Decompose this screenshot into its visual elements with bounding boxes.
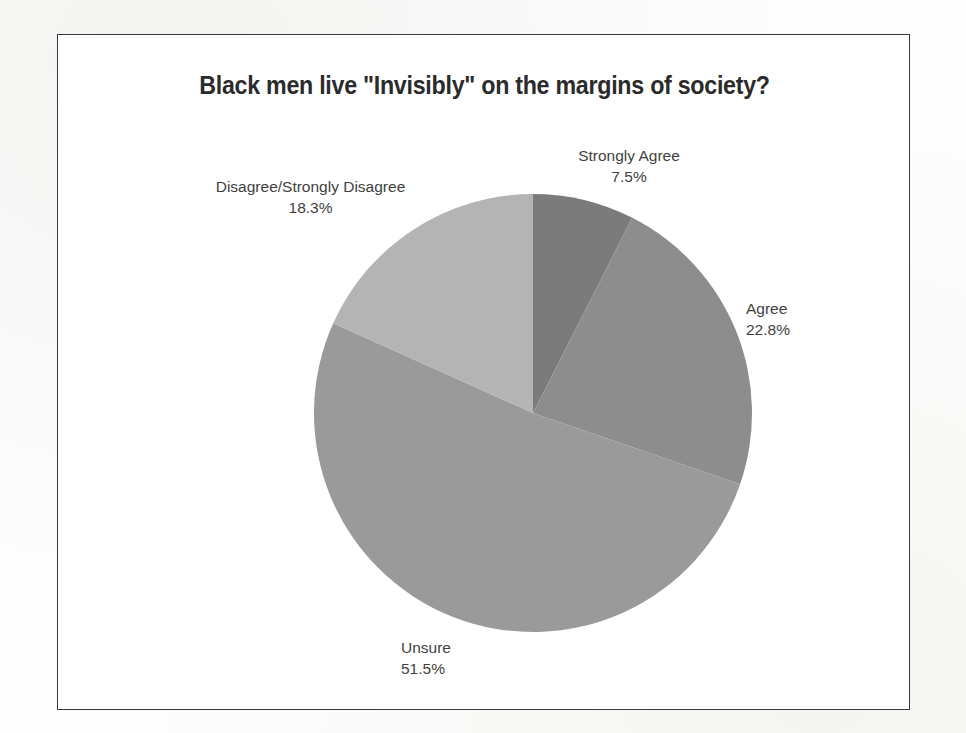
slice-label-unsure: Unsure 51.5% [401, 638, 541, 680]
slice-label-name: Agree [746, 299, 886, 320]
pie-chart-svg [313, 193, 753, 633]
slice-label-value: 18.3% [178, 198, 443, 219]
chart-title: Black men live "Invisibly" on the margin… [88, 71, 881, 100]
pie-slice-group [314, 194, 752, 632]
slice-label-agree: Agree 22.8% [746, 299, 886, 341]
page-background: Black men live "Invisibly" on the margin… [0, 0, 966, 733]
slice-label-name: Unsure [401, 638, 541, 659]
slice-label-name: Disagree/Strongly Disagree [178, 177, 443, 198]
slice-label-value: 7.5% [539, 167, 719, 188]
chart-frame: Black men live "Invisibly" on the margin… [57, 34, 910, 710]
slice-label-disagree: Disagree/Strongly Disagree 18.3% [178, 177, 443, 219]
slice-label-strongly-agree: Strongly Agree 7.5% [539, 146, 719, 188]
slice-label-value: 51.5% [401, 659, 541, 680]
slice-label-name: Strongly Agree [539, 146, 719, 167]
slice-label-value: 22.8% [746, 320, 886, 341]
pie-chart [313, 193, 753, 633]
